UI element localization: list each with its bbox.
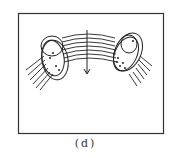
fiber-bundle xyxy=(26,34,152,90)
frame-border xyxy=(19,14,164,134)
downward-arrow-icon xyxy=(84,30,90,74)
diagram-figure xyxy=(0,0,171,158)
left-ring xyxy=(39,36,72,82)
figure-caption: (d) xyxy=(0,137,171,150)
